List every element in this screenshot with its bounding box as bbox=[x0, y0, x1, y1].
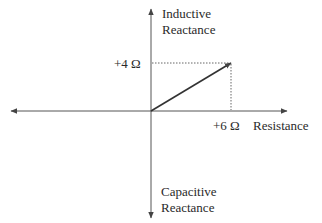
capacitive-reactance-label: Capacitive Reactance bbox=[161, 184, 217, 216]
impedance-vector bbox=[151, 63, 231, 111]
impedance-diagram: Inductive Reactance +4 Ω +6 Ω Resistance… bbox=[0, 0, 322, 223]
capacitive-label-line1: Capacitive bbox=[161, 184, 217, 200]
reactance-tick-label: +4 Ω bbox=[114, 56, 141, 71]
resistance-axis-label: Resistance bbox=[253, 118, 309, 133]
resistance-tick-label: +6 Ω bbox=[213, 118, 240, 133]
inductive-label-line2: Reactance bbox=[162, 22, 215, 38]
capacitive-label-line2: Reactance bbox=[161, 200, 217, 216]
inductive-reactance-label: Inductive Reactance bbox=[162, 6, 215, 38]
inductive-label-line1: Inductive bbox=[162, 6, 215, 22]
